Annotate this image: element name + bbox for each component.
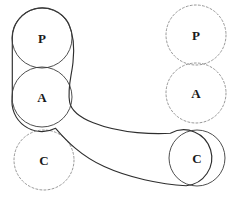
pulley-label-c-left: C: [39, 153, 48, 168]
pulley-label-group: P A C P A C: [37, 28, 201, 168]
pulley-label-c-right: C: [192, 151, 201, 166]
pulley-label-a-left: A: [37, 90, 47, 105]
pulley-label-a-right: A: [191, 86, 201, 101]
diagram-canvas: P A C P A C: [0, 0, 239, 202]
belt-pulley-diagram: P A C P A C: [0, 0, 239, 202]
pulley-label-p-left: P: [38, 31, 46, 46]
pulley-label-p-right: P: [192, 28, 200, 43]
